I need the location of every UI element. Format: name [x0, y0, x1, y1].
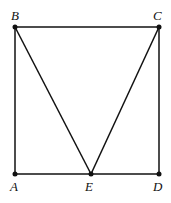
- label-a: A: [9, 179, 18, 194]
- points: [13, 25, 162, 177]
- geometry-diagram: B C A E D: [0, 0, 171, 203]
- label-d: D: [152, 179, 163, 194]
- point-e: [89, 172, 94, 177]
- labels: B C A E D: [9, 8, 163, 194]
- segments: [15, 27, 159, 174]
- segment-be: [15, 27, 91, 174]
- segment-ce: [91, 27, 159, 174]
- label-b: B: [11, 8, 19, 23]
- point-b: [13, 25, 18, 30]
- point-c: [157, 25, 162, 30]
- label-e: E: [84, 179, 93, 194]
- label-c: C: [153, 8, 162, 23]
- point-a: [13, 172, 18, 177]
- point-d: [157, 172, 162, 177]
